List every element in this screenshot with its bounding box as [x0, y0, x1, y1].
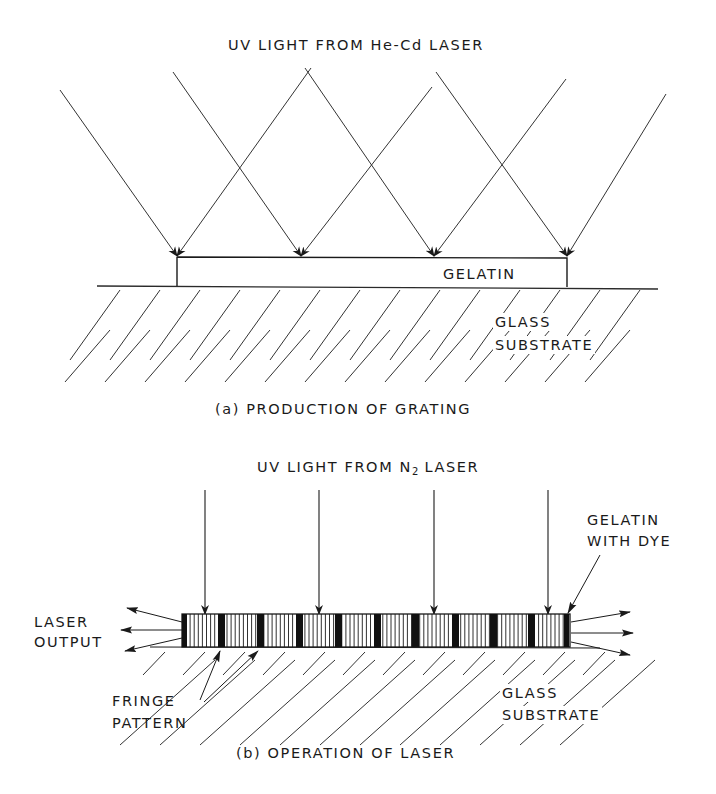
laser-beam-ray	[305, 68, 434, 256]
n2-pump-arrows	[205, 490, 548, 614]
hatch-line	[590, 290, 640, 360]
hatch-line	[270, 290, 320, 360]
hatch-line	[110, 290, 160, 360]
laser-beam-ray	[173, 72, 301, 256]
fringe-pattern-label-line1: FRINGE	[112, 692, 176, 710]
hatch-line	[345, 330, 390, 382]
glass-substrate-a	[97, 286, 658, 289]
hatch-line	[70, 290, 120, 360]
hatch-line	[105, 330, 150, 382]
hatch-line	[143, 652, 165, 675]
hatch-line	[145, 330, 190, 382]
laser-output-label-line2: OUTPUT	[34, 633, 103, 651]
hatch-line	[480, 660, 575, 745]
laser-grating-figure: UV LIGHT FROM He-Cd LASER GELATIN GLASS …	[0, 0, 716, 794]
dark-fringe	[182, 614, 187, 647]
hatch-line	[385, 330, 430, 382]
glass-substrate-label-a-line2: SUBSTRATE	[493, 336, 595, 354]
gelatin-with-dye-label-line1: GELATIN	[587, 511, 660, 529]
dark-fringe	[528, 614, 535, 647]
hatch-line	[265, 330, 310, 382]
dye-gelatin-slab	[182, 614, 570, 647]
hatch-line	[390, 290, 440, 360]
hatch-line	[190, 290, 240, 360]
hatch-line	[65, 330, 110, 382]
hatch-line	[320, 660, 415, 745]
hatch-line	[360, 660, 455, 745]
laser-beam-ray	[434, 79, 566, 256]
figure-b-title: UV LIGHT FROM N2 LASER	[257, 458, 479, 479]
laser-beam-ray	[301, 87, 432, 256]
gelatin-with-dye-label-line2: WITH DYE	[587, 532, 671, 550]
hatch-line	[425, 330, 470, 382]
diagram-drawing	[0, 0, 716, 794]
figure-a-caption: (a) PRODUCTION OF GRATING	[215, 400, 471, 418]
dark-fringe	[452, 614, 459, 647]
dark-fringe	[564, 614, 569, 647]
dark-fringe	[490, 614, 497, 647]
glass-substrate-label-b-line2: SUBSTRATE	[500, 706, 602, 724]
gelatin-label: GELATIN	[443, 265, 516, 283]
figure-b-title-prefix: UV LIGHT FROM N	[257, 459, 412, 475]
laser-beam-ray	[60, 90, 177, 256]
hatch-line	[240, 660, 335, 745]
hatch-line	[520, 660, 615, 745]
laser-output-label-line1: LASER	[34, 613, 89, 631]
laser-beam-ray	[567, 94, 666, 256]
hatch-line	[305, 330, 350, 382]
hatch-line	[150, 290, 200, 360]
hatch-line	[430, 290, 480, 360]
figure-a-title: UV LIGHT FROM He-Cd LASER	[228, 36, 484, 54]
hatch-line	[440, 660, 535, 745]
figure-b-title-suffix: LASER	[418, 459, 479, 475]
dark-fringe	[374, 614, 381, 647]
glass-substrate-label-b-line1: GLASS	[500, 684, 560, 702]
dark-fringe	[218, 614, 225, 647]
hatch-line	[310, 290, 360, 360]
hatch-line	[200, 660, 295, 745]
dark-fringe	[412, 614, 419, 647]
laser-beam-ray	[436, 72, 567, 256]
dark-fringe	[296, 614, 303, 647]
hatch-line	[225, 330, 270, 382]
figure-b-caption: (b) OPERATION OF LASER	[236, 744, 455, 762]
dark-fringe	[257, 614, 264, 647]
hatch-line	[350, 290, 400, 360]
he-cd-laser-beams	[60, 68, 666, 256]
hatch-line	[560, 660, 655, 745]
hatch-line	[230, 290, 280, 360]
laser-beam-ray	[177, 68, 311, 256]
hatch-line	[400, 660, 495, 745]
hatch-line	[280, 660, 375, 745]
dark-fringe	[335, 614, 342, 647]
glass-substrate-label-a-line1: GLASS	[493, 313, 553, 331]
hatch-line	[185, 330, 230, 382]
fringe-pattern-label-line2: PATTERN	[112, 714, 187, 732]
